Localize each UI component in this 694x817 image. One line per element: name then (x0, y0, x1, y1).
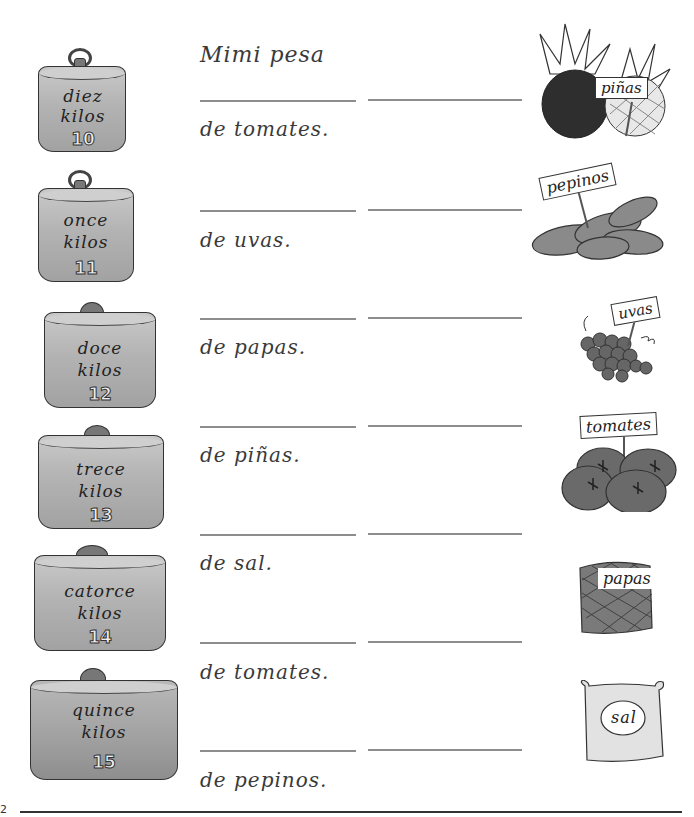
weight-unit: kilos (44, 360, 156, 380)
item-label-sign: tomates (579, 412, 657, 439)
weight-12kg: doce kilos 12 (44, 302, 156, 408)
item-label-sign: piñas (595, 77, 648, 99)
weight-number: 12 (44, 384, 156, 404)
weight-word: quince (30, 700, 178, 720)
answer-blank-3b[interactable] (368, 317, 522, 319)
prompt-4: de piñas. (200, 443, 301, 467)
weight-unit: kilos (30, 722, 178, 742)
page-number: 2 (0, 803, 7, 816)
item-grapes: uvas (566, 296, 666, 388)
answer-blank-7a[interactable] (200, 750, 356, 752)
item-pineapple: piñas (520, 14, 680, 139)
prompt-7: de pepinos. (200, 768, 327, 792)
answer-blank-2b[interactable] (368, 209, 522, 211)
answer-blank-6b[interactable] (368, 641, 522, 643)
weight-14kg: catorce kilos 14 (34, 545, 166, 651)
weight-13kg: trece kilos 13 (38, 425, 164, 529)
weight-10kg: diez kilos 10 (38, 48, 128, 153)
weight-11kg: once kilos 11 (38, 170, 134, 282)
answer-blank-1b[interactable] (368, 99, 522, 101)
item-salt: sal (575, 680, 667, 766)
item-tomatoes: tomates (558, 412, 690, 512)
weight-unit: kilos (34, 603, 166, 623)
weight-number: 11 (38, 258, 134, 278)
bottom-rule (20, 811, 682, 813)
weight-unit: kilos (38, 106, 128, 126)
answer-blank-5a[interactable] (200, 534, 356, 536)
weight-word: once (38, 210, 134, 230)
weight-word: doce (44, 338, 156, 358)
prompt-3: de papas. (200, 335, 306, 359)
weight-word: diez (38, 86, 128, 106)
answer-blank-4a[interactable] (200, 426, 356, 428)
prompt-1: de tomates. (200, 117, 329, 141)
item-label-sign: papas (598, 568, 656, 589)
prompt-6: de tomates. (200, 660, 329, 684)
item-cucumbers: pepinos (528, 160, 668, 260)
weight-15kg: quince kilos 15 (30, 668, 178, 780)
weight-unit: kilos (38, 232, 134, 252)
item-label-sign: sal (611, 708, 637, 727)
weight-word: trece (38, 459, 164, 479)
answer-blank-3a[interactable] (200, 318, 356, 320)
weight-number: 15 (30, 752, 178, 772)
answer-blank-2a[interactable] (200, 210, 356, 212)
weight-number: 13 (38, 505, 164, 525)
weight-number: 10 (38, 129, 128, 149)
weight-word: catorce (34, 581, 166, 601)
answer-blank-6a[interactable] (200, 642, 356, 644)
item-potatoes: papas (572, 558, 656, 638)
weight-unit: kilos (38, 481, 164, 501)
prompt-5: de sal. (200, 551, 273, 575)
answer-blank-4b[interactable] (368, 425, 522, 427)
answer-blank-5b[interactable] (368, 533, 522, 535)
intro-text: Mimi pesa (200, 42, 325, 67)
answer-blank-7b[interactable] (368, 749, 522, 751)
weight-number: 14 (34, 627, 166, 647)
answer-blank-1a[interactable] (200, 100, 356, 102)
prompt-2: de uvas. (200, 228, 292, 252)
